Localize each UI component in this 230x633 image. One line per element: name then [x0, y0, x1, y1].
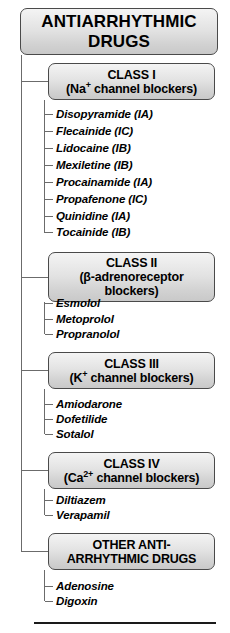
class3-heading: CLASS III [49, 357, 214, 371]
title-line-1: ANTIARRHYTHMIC [41, 12, 196, 31]
class-box-other: OTHER ANTI- ARRHYTHMIC DRUGS [48, 533, 215, 570]
class2-subheading-line2: blockers) [49, 284, 214, 298]
title-line-2: DRUGS [88, 32, 150, 51]
drug-item: Verapamil [56, 509, 110, 521]
drug-item: Digoxin [56, 595, 97, 607]
class4-sub-suffix: channel blockers) [93, 471, 199, 485]
class-box-class4: CLASS IV (Ca2+ channel blockers) [48, 452, 215, 489]
class4-sub-prefix: (Ca [64, 471, 84, 485]
class3-sub-suffix: channel blockers) [87, 371, 193, 385]
class1-sub-prefix: (Na [66, 82, 86, 96]
class3-subheading: (K+ channel blockers) [49, 371, 214, 385]
class-box-class2: CLASS II (β-adrenoreceptor blockers) [48, 252, 215, 302]
drug-item: Esmolol [56, 297, 100, 309]
class-box-class1: CLASS I (Na+ channel blockers) [48, 63, 215, 100]
drug-item: Propafenone (IC) [56, 193, 147, 205]
drug-item: Procainamide (IA) [56, 176, 152, 188]
class-box-class3: CLASS III (K+ channel blockers) [48, 352, 215, 389]
drug-item: Mexiletine (IB) [56, 159, 132, 171]
drug-item: Adenosine [56, 580, 114, 592]
drug-item: Diltiazem [56, 494, 106, 506]
drug-item: Flecainide (IC) [56, 125, 133, 137]
class1-heading: CLASS I [49, 68, 214, 82]
class3-sub-prefix: (K [69, 371, 82, 385]
drug-item: Dofetilide [56, 413, 107, 425]
class4-heading: CLASS IV [49, 457, 214, 471]
class1-subheading: (Na+ channel blockers) [49, 82, 214, 96]
class1-sub-suffix: channel blockers) [91, 82, 197, 96]
class4-subheading: (Ca2+ channel blockers) [49, 471, 214, 485]
drug-item: Tocainide (IB) [56, 226, 130, 238]
drug-item: Sotalol [56, 428, 94, 440]
other-heading: OTHER ANTI- [49, 538, 214, 552]
drug-item: Lidocaine (IB) [56, 142, 131, 154]
drug-item: Quinidine (IA) [56, 210, 130, 222]
antiarrhythmic-drugs-chart: ANTIARRHYTHMIC DRUGS CLASS I (Na+ channe… [0, 0, 230, 633]
class2-heading: CLASS II [49, 256, 214, 270]
drug-item: Amiodarone [56, 398, 122, 410]
drug-item: Metoprolol [56, 313, 114, 325]
page-title: ANTIARRHYTHMIC DRUGS [20, 8, 218, 55]
bottom-divider [34, 622, 216, 624]
class2-subheading-line1: (β-adrenoreceptor [49, 270, 214, 284]
drug-item: Propranolol [56, 328, 119, 340]
class4-sub-sup: 2+ [83, 468, 93, 478]
other-subheading: ARRHYTHMIC DRUGS [49, 552, 214, 566]
drug-item: Disopyramide (IA) [56, 108, 153, 120]
